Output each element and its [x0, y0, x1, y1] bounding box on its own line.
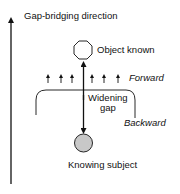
knowing-subject-node: [75, 134, 93, 152]
gap-label: gap: [100, 102, 116, 113]
object-known-node: [74, 41, 92, 59]
axis-label: Gap-bridging direction: [24, 10, 117, 21]
gap-bridging-diagram: Gap-bridging direction Object known Forw…: [0, 0, 180, 194]
backward-label: Backward: [124, 117, 166, 128]
knowing-subject-label: Knowing subject: [68, 159, 138, 170]
forward-label: Forward: [129, 72, 165, 83]
object-known-label: Object known: [97, 44, 155, 55]
